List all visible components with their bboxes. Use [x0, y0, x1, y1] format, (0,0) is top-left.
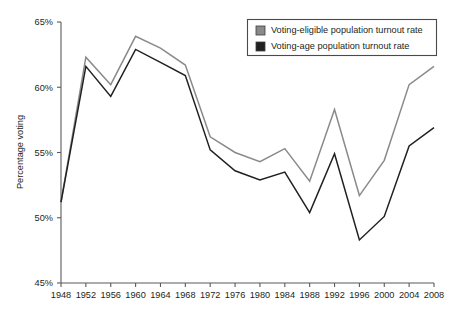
x-tick-label: 1956 — [101, 290, 121, 300]
y-axis-title: Percentage voting — [15, 115, 25, 189]
x-tick-label: 1992 — [324, 290, 344, 300]
x-tick-label: 1952 — [76, 290, 96, 300]
x-tick-label: 1948 — [51, 290, 71, 300]
series-group — [61, 36, 434, 240]
y-axis-group: 45%50%55%60%65% — [35, 17, 61, 288]
x-tick-label: 1988 — [299, 290, 319, 300]
x-tick-group: 1948195219561960196419681972197619801984… — [51, 283, 444, 300]
x-tick-label: 1968 — [175, 290, 195, 300]
x-tick-label: 1972 — [200, 290, 220, 300]
legend-label: Voting-eligible population turnout rate — [271, 25, 423, 35]
y-tick-label: 45% — [35, 278, 53, 288]
x-tick-label: 2004 — [399, 290, 419, 300]
x-tick-label: 1960 — [125, 290, 145, 300]
series-line — [61, 36, 434, 202]
y-tick-group: 45%50%55%60%65% — [35, 17, 61, 288]
x-tick-label: 1980 — [250, 290, 270, 300]
x-tick-label: 1996 — [349, 290, 369, 300]
x-tick-label: 1984 — [275, 290, 295, 300]
turnout-line-chart: 45%50%55%60%65% 194819521956196019641968… — [0, 0, 454, 320]
x-tick-label: 2008 — [424, 290, 444, 300]
chart-legend: Voting-eligible population turnout rateV… — [248, 20, 437, 56]
x-axis-group: 1948195219561960196419681972197619801984… — [51, 283, 444, 300]
y-tick-label: 60% — [35, 83, 53, 93]
y-tick-label: 50% — [35, 213, 53, 223]
legend-swatch — [256, 26, 265, 35]
x-tick-label: 1976 — [225, 290, 245, 300]
x-tick-label: 1964 — [150, 290, 170, 300]
legend-label: Voting-age population turnout rate — [271, 41, 409, 51]
series-line — [61, 49, 434, 240]
y-tick-label: 55% — [35, 148, 53, 158]
legend-swatch — [256, 42, 265, 51]
x-tick-label: 2000 — [374, 290, 394, 300]
chart-svg: 45%50%55%60%65% 194819521956196019641968… — [0, 0, 454, 320]
y-tick-label: 65% — [35, 17, 53, 27]
